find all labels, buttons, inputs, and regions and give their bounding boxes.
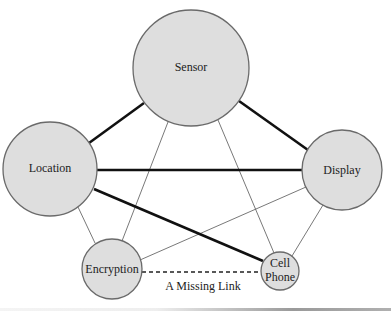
edge-display-encryption — [140, 187, 306, 260]
edge-sensor-display — [239, 101, 308, 150]
sensor-label: Sensor — [175, 60, 208, 74]
cellphone-label-line2: Phone — [265, 270, 295, 284]
edge-location-encryption — [78, 207, 95, 243]
node-encryption: Encryption — [82, 239, 142, 299]
edge-sensor-cellphone — [218, 120, 274, 253]
node-location: Location — [3, 122, 97, 216]
location-label: Location — [29, 161, 72, 175]
node-sensor: Sensor — [133, 10, 249, 126]
edge-display-cellphone — [292, 205, 323, 256]
network-diagram: A Missing Link Sensor Location Display E… — [0, 0, 391, 311]
node-cellphone: Cell Phone — [261, 252, 299, 290]
display-label: Display — [323, 163, 360, 177]
cellphone-label-line1: Cell — [270, 256, 291, 270]
edge-sensor-encryption — [122, 122, 168, 241]
encryption-label: Encryption — [85, 262, 138, 276]
edge-sensor-location — [89, 103, 144, 143]
node-display: Display — [302, 130, 382, 210]
missing-link-caption: A Missing Link — [165, 279, 240, 293]
